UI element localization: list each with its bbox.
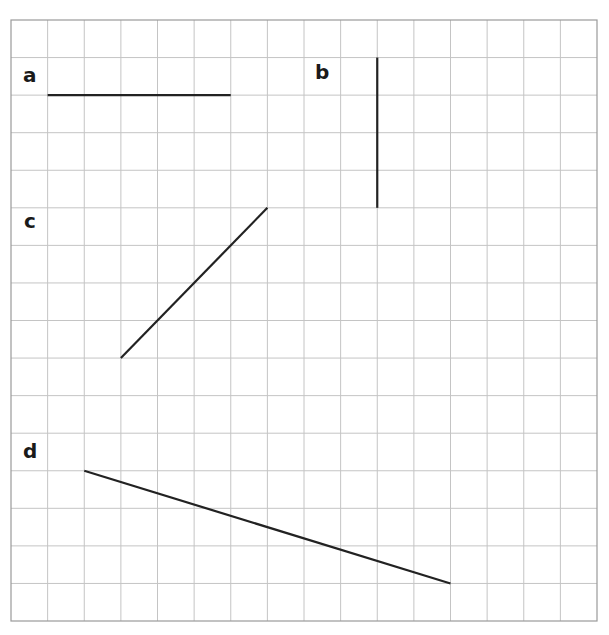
segment-label-a: a — [23, 65, 37, 85]
segment-label-c: c — [24, 211, 36, 231]
segment-label-b: b — [315, 62, 329, 82]
grid-diagram: a b c d — [0, 0, 609, 635]
grid-paper — [0, 0, 609, 635]
segment-label-d: d — [23, 441, 37, 461]
